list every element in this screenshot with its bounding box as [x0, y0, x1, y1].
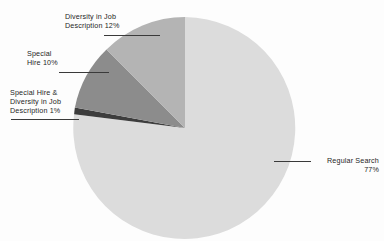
pie-label-regular-search: Regular Search 77%: [311, 156, 379, 174]
pie-chart-graphic: [0, 0, 384, 241]
leader-line-diversity: [104, 35, 160, 36]
pie-chart-figure: Diversity in Job Description 12% Special…: [0, 0, 384, 241]
leader-line-special-hire: [59, 72, 109, 73]
leader-line-special-hire-and-diversity: [11, 119, 79, 120]
leader-line-regular-search: [274, 161, 311, 162]
pie-label-special-hire: Special Hire 10%: [27, 49, 58, 67]
pie-label-diversity-in-job-description: Diversity in Job Description 12%: [65, 12, 120, 30]
pie-label-special-hire-and-diversity: Special Hire & Diversity in Job Descript…: [10, 88, 61, 116]
